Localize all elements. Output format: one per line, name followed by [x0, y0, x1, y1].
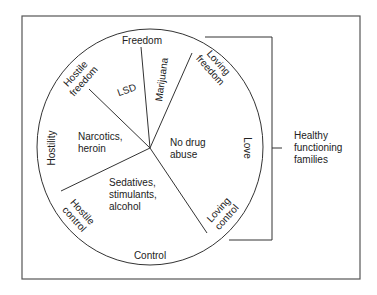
- rim-label-hostility: Hostility: [46, 130, 57, 165]
- svg-text:Sedatives,: Sedatives,: [109, 177, 156, 188]
- segment-label-lsd: LSD: [116, 81, 138, 98]
- segment-label-no-drug-abuse: No drug abuse: [170, 137, 206, 160]
- bracket-label-healthy-families: Healthy functioning families: [294, 130, 342, 165]
- svg-text:heroin: heroin: [78, 143, 106, 154]
- divider-loving-control: [150, 148, 207, 233]
- svg-text:families: families: [294, 154, 328, 165]
- rim-label-freedom: Freedom: [122, 35, 162, 46]
- svg-text:Healthy: Healthy: [294, 130, 328, 141]
- svg-text:Narcotics,: Narcotics,: [78, 131, 122, 142]
- svg-text:stimulants,: stimulants,: [109, 189, 157, 200]
- segment-label-narcotics: Narcotics, heroin: [78, 131, 122, 154]
- rim-label-loving-freedom: Loving freedom: [194, 45, 235, 87]
- segment-label-sedatives: Sedatives, stimulants, alcohol: [109, 177, 157, 212]
- svg-text:functioning: functioning: [294, 142, 342, 153]
- rim-label-hostile-control: Hostile control: [60, 197, 97, 235]
- drug-abuse-family-diagram: Freedom Control Hostility Love Hostile f…: [0, 0, 377, 295]
- svg-text:alcohol: alcohol: [109, 201, 141, 212]
- rim-label-love: Love: [242, 137, 253, 159]
- rim-label-control: Control: [134, 250, 166, 261]
- svg-text:abuse: abuse: [170, 149, 198, 160]
- svg-text:No drug: No drug: [170, 137, 206, 148]
- segment-label-marijuana: Marijuana: [153, 57, 170, 102]
- rim-label-loving-control: Loving control: [204, 195, 240, 232]
- divider-freedom: [141, 47, 150, 148]
- rim-label-hostile-freedom: Hostile freedom: [59, 56, 100, 98]
